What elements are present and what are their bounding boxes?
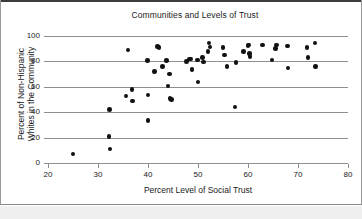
y-tick-80 [44, 61, 48, 62]
scatter-point [196, 80, 201, 85]
scatter-point [107, 134, 112, 139]
x-tick-label-30: 30 [85, 170, 111, 179]
x-tick-60 [248, 164, 249, 168]
scatter-point [285, 44, 290, 49]
figure-left-border [0, 0, 1, 205]
scatter-point [305, 45, 310, 50]
x-tick-label-40: 40 [135, 170, 161, 179]
x-tick-label-50: 50 [185, 170, 211, 179]
x-tick-label-20: 20 [35, 170, 61, 179]
gridline-y-20 [48, 138, 348, 139]
scatter-point [201, 60, 206, 65]
gridline-y-60 [48, 87, 348, 88]
scatter-point [146, 93, 151, 98]
scatter-point [108, 147, 113, 152]
scatter-point [164, 58, 169, 63]
chart-figure: Communities and Levels of Trust 02040608… [0, 0, 362, 219]
y-tick-60 [44, 87, 48, 88]
scatter-point [273, 46, 278, 51]
x-tick-label-60: 60 [235, 170, 261, 179]
scatter-point [167, 72, 172, 77]
gridline-y-100 [48, 36, 348, 37]
scatter-point [107, 107, 112, 112]
scatter-point [248, 54, 253, 59]
scatter-point [190, 67, 195, 72]
x-tick-40 [148, 164, 149, 168]
scatter-point [234, 60, 239, 65]
y-axis-title-line2: Whites in the Community [26, 19, 36, 169]
scatter-point [152, 69, 157, 74]
chart-title: Communities and Levels of Trust [40, 10, 350, 20]
y-axis-title: Percent of Non-Hispanic Whites in the Co… [16, 19, 36, 169]
figure-footer-strip [0, 206, 362, 219]
scatter-point [160, 64, 165, 69]
scatter-point [225, 64, 230, 69]
y-tick-40 [44, 112, 48, 113]
scatter-point [130, 87, 135, 92]
scatter-point [206, 49, 211, 54]
x-tick-20 [48, 164, 49, 168]
scatter-point [145, 58, 150, 63]
x-tick-50 [198, 164, 199, 168]
x-tick-label-70: 70 [285, 170, 311, 179]
x-tick-70 [298, 164, 299, 168]
scatter-point [241, 49, 246, 54]
x-tick-30 [98, 164, 99, 168]
x-tick-label-80: 80 [335, 170, 361, 179]
scatter-point [208, 45, 213, 50]
x-tick-80 [348, 164, 349, 168]
scatter-point [247, 43, 252, 48]
scatter-point [71, 152, 76, 157]
y-tick-20 [44, 138, 48, 139]
gridline-y-40 [48, 112, 348, 113]
scatter-point [313, 64, 318, 69]
scatter-point [126, 48, 131, 53]
scatter-point [146, 118, 151, 123]
y-tick-100 [44, 36, 48, 37]
scatter-point [221, 45, 226, 50]
figure-bottom-border [0, 204, 362, 205]
scatter-point [313, 41, 318, 46]
scatter-point [286, 66, 291, 71]
scatter-point [233, 105, 238, 110]
scatter-point [274, 43, 279, 48]
scatter-point [222, 53, 227, 58]
scatter-point [130, 99, 135, 104]
scatter-point [260, 43, 265, 48]
scatter-point [306, 55, 311, 60]
x-axis-title: Percent Level of Social Trust [48, 185, 348, 195]
scatter-point [169, 97, 174, 102]
scatter-point [157, 45, 162, 50]
y-axis-title-line1: Percent of Non-Hispanic [16, 19, 26, 169]
scatter-point [124, 94, 129, 99]
plot-area [48, 36, 348, 163]
figure-top-border [0, 0, 362, 2]
